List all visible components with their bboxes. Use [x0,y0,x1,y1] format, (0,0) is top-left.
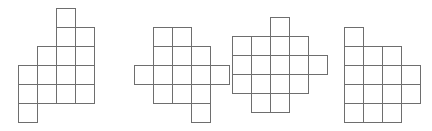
net-square [363,65,382,84]
net-square [344,103,363,122]
net-square [75,84,94,103]
net-square [134,65,153,84]
net-square [191,103,210,122]
hexomino-net-2 [134,27,229,122]
net-square [363,103,382,122]
net-square [344,65,363,84]
net-square [401,84,420,103]
net-square [289,36,308,55]
hexomino-net-1 [18,8,94,122]
net-square [56,84,75,103]
net-square [270,93,289,112]
net-square [270,55,289,74]
net-square [382,103,401,122]
net-square [56,46,75,65]
net-square [382,65,401,84]
net-square [37,65,56,84]
net-square [172,65,191,84]
net-square [363,84,382,103]
net-square [401,65,420,84]
net-square [75,27,94,46]
net-square [382,46,401,65]
net-square [18,65,37,84]
net-square [210,65,229,84]
net-square [251,93,270,112]
net-square [56,27,75,46]
net-square [56,8,75,27]
net-square [153,46,172,65]
net-square [232,74,251,93]
net-square [251,36,270,55]
net-square [289,55,308,74]
net-square [37,84,56,103]
net-square [191,46,210,65]
net-square [172,27,191,46]
net-square [270,36,289,55]
net-square [289,74,308,93]
net-square [75,65,94,84]
net-square [344,46,363,65]
net-square [363,46,382,65]
net-square [56,65,75,84]
net-square [382,84,401,103]
net-square [251,55,270,74]
net-square [18,84,37,103]
net-square [191,65,210,84]
net-square [270,17,289,36]
net-square [153,27,172,46]
figure-canvas [0,0,432,131]
net-square [172,46,191,65]
net-square [270,74,289,93]
net-square [232,55,251,74]
net-square [191,84,210,103]
net-square [153,84,172,103]
net-square [75,46,94,65]
hexomino-net-4 [344,27,420,122]
net-square [232,36,251,55]
net-square [172,84,191,103]
cube-nets-diagram [0,0,432,131]
net-square [308,55,327,74]
net-square [344,27,363,46]
net-square [251,74,270,93]
net-square [37,46,56,65]
net-square [18,103,37,122]
net-square [344,84,363,103]
hexomino-net-3 [232,17,327,112]
net-square [153,65,172,84]
